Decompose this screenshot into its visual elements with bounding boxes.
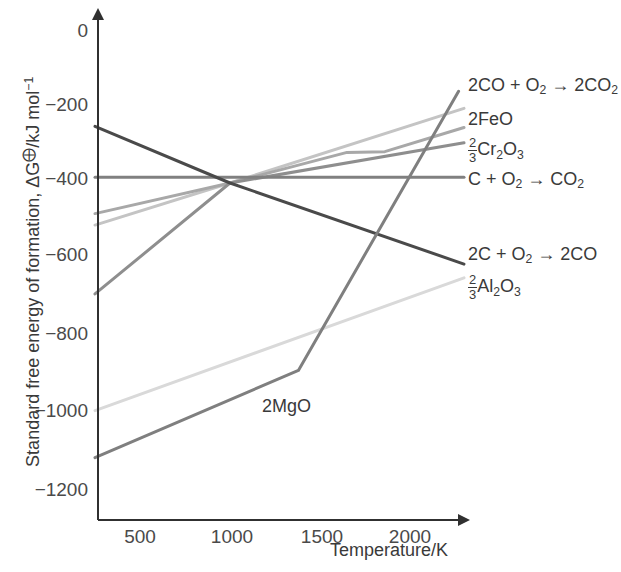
series-label-2mgo: 2MgO — [262, 396, 311, 417]
x-tick-label: 1000 — [192, 526, 272, 548]
y-axis-title-text: Standard free energy of formation, ΔG — [23, 162, 43, 467]
series-line-5 — [95, 278, 464, 411]
y-tick-label: −1000 — [6, 400, 88, 422]
y-axis-title-units: /kJ mol — [23, 91, 43, 148]
series-line-4 — [95, 126, 464, 264]
series-label-al2o3: 23Al2O3 — [468, 274, 521, 301]
series-label-2c-o2-2co: 2C + O2 → 2CO — [468, 245, 597, 266]
y-axis-title: Standard free energy of formation, ΔG⨁/k… — [20, 62, 44, 482]
y-tick-label: −1200 — [6, 479, 88, 501]
series-label-c-o2-co2: C + O2 → CO2 — [468, 170, 584, 191]
x-axis-title: Temperature/K — [330, 540, 448, 561]
y-tick-label: 0 — [12, 20, 88, 42]
series-line-2 — [95, 143, 464, 294]
ellingham-diagram-figure: 0 −200 −400 −600 −800 −1000 −1200 500 10… — [0, 0, 621, 572]
series-label-cr2o3: 23Cr2O3 — [468, 137, 524, 164]
y-axis-title-exponent: −1 — [22, 77, 36, 91]
standard-state-symbol: ⨁ — [20, 148, 36, 162]
series-line-0 — [95, 108, 464, 225]
series-label-2feo: 2FeO — [468, 110, 513, 128]
series-label-2co-o2-2co2: 2CO + O2 → 2CO2 — [468, 76, 618, 97]
x-tick-label: 500 — [100, 526, 180, 548]
